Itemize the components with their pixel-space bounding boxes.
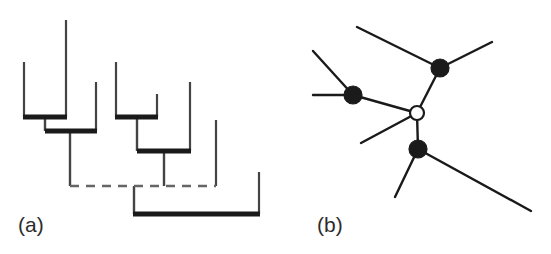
node-internal-left [344,86,362,104]
panel-a-svg: (a) [0,0,285,254]
leaf-edge-n4-lower-right [418,149,531,211]
panel-b-network: (b) [285,0,551,254]
node-internal-center [410,106,424,120]
edge-n2-n3 [353,95,417,113]
merge-bar-group [23,117,260,214]
leaf-edge-n3-lower-left [361,113,417,143]
node-internal-bottom [409,140,427,158]
node-internal-top [431,59,449,77]
leaf-edge-n1-upper-left [357,27,440,68]
panel-a-dendrogram: (a) [0,0,285,254]
figure-container: (a) (b) [0,0,551,254]
network-node-group [344,59,449,158]
panel-b-svg: (b) [285,0,551,254]
panel-a-label: (a) [18,213,44,236]
panel-b-label: (b) [317,213,343,236]
